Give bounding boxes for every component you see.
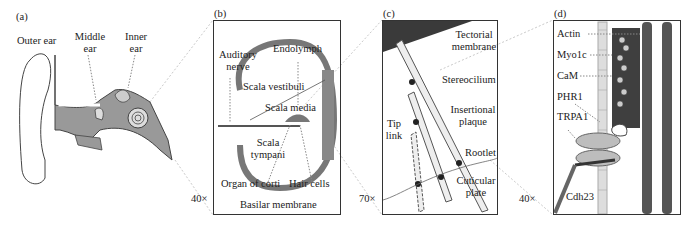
panel-d-letter: (d) (554, 8, 566, 20)
ear-illustration (20, 54, 172, 184)
label-rootlet: Rootlet (465, 147, 496, 159)
label-auditory-nerve: Auditorynerve (216, 49, 260, 73)
label-scala-vestibuli: Scala vestibuli (243, 81, 305, 93)
label-basilar-membrane: Basilar membrane (240, 199, 317, 211)
label-hair-cells: Hair cells (289, 178, 330, 190)
label-scala-tympani: Scalatympani (250, 137, 286, 161)
label-middle-ear: Middleear (72, 31, 108, 55)
magnification-b-c: 70× (359, 193, 375, 205)
label-endolymph: Endolymph (273, 43, 322, 55)
panel-b-letter: (b) (214, 8, 226, 20)
label-outer-ear: Outer ear (17, 35, 56, 47)
label-cdh23: Cdh23 (566, 191, 594, 203)
label-stereocilium: Stereocilium (442, 74, 496, 86)
label-actin: Actin (557, 28, 580, 40)
label-inner-ear: Innerear (120, 31, 152, 55)
label-trpa1: TRPA1 (557, 111, 588, 123)
panel-a-letter: (a) (16, 11, 28, 23)
magnification-a-b: 40× (191, 193, 207, 205)
label-cuticular-plate: Cuticularplate (455, 175, 497, 199)
label-phr1: PHR1 (557, 91, 583, 103)
label-myo1c: Myo1c (557, 49, 587, 61)
label-cam: CaM (557, 70, 578, 82)
label-organ-of-corti: Organ of corti (221, 178, 280, 190)
label-tectorial-membrane: Tectorialmembrane (450, 29, 498, 53)
label-scala-media: Scala media (265, 102, 316, 114)
panel-c-letter: (c) (383, 8, 395, 20)
label-insertional-plaque: Insertionalplaque (449, 104, 497, 128)
magnification-c-d: 40× (519, 193, 535, 205)
label-tip-link: Tiplink (384, 118, 404, 142)
